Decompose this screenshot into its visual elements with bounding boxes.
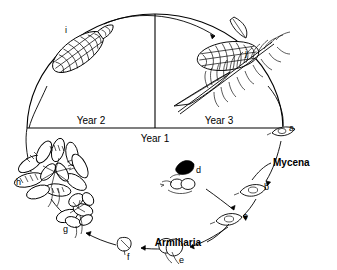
label-stage-a: a — [289, 123, 294, 133]
stage-i-shape — [46, 16, 121, 81]
label-stage-c: c — [243, 211, 248, 221]
genus-leaders — [207, 163, 271, 242]
arc-year3 — [155, 14, 283, 128]
arrow-e-f — [141, 246, 145, 251]
label-stage-f: f — [127, 252, 130, 262]
label-armillaria: Armillaria — [155, 237, 202, 248]
label-stage-j: j — [244, 48, 247, 58]
label-stage-h: h — [16, 177, 21, 187]
leader-armillaria — [207, 224, 229, 242]
label-stage-b: b — [264, 182, 269, 192]
stage-g-shape — [55, 190, 96, 238]
arc-year2 — [27, 14, 155, 128]
label-stage-e: e — [179, 255, 184, 265]
stage-d-shape — [160, 161, 195, 194]
label-year1: Year 1 — [141, 133, 170, 144]
label-year3: Year 3 — [205, 115, 234, 126]
connector-i-to-j — [104, 15, 215, 36]
connector-i-arc — [29, 86, 47, 128]
label-stage-g: g — [63, 224, 68, 234]
arrow-d-c — [231, 205, 235, 210]
label-mycena: Mycena — [273, 157, 310, 168]
life-cycle-canvas: Year 2 Year 3 Year 1 Mycena Armillaria a… — [0, 0, 337, 270]
label-stage-i: i — [65, 25, 67, 35]
stage-b-shape — [234, 185, 266, 197]
label-year2: Year 2 — [77, 115, 106, 126]
connector-d-c — [206, 189, 234, 210]
label-stage-d: d — [196, 165, 201, 175]
stage-j-shape — [174, 17, 290, 114]
stage-c-shape — [210, 214, 242, 226]
connector-f-g — [86, 233, 116, 245]
life-cycle-diagram: Year 2 Year 3 Year 1 Mycena Armillaria a… — [0, 0, 337, 270]
